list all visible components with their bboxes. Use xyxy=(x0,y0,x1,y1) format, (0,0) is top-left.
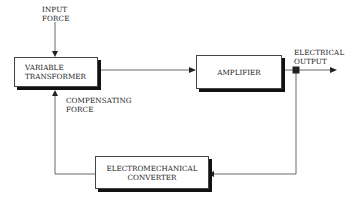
compensating-force-label: COMPENSATING FORCE xyxy=(66,97,132,114)
block-variable-transformer: VARIABLE TRANSFORMER xyxy=(14,57,98,87)
block-label: AMPLIFIER xyxy=(217,68,260,77)
block-electromechanical-converter: ELECTROMECHANICAL CONVERTER xyxy=(95,156,209,189)
block-amplifier: AMPLIFIER xyxy=(196,55,282,89)
arrow-up-icon xyxy=(52,90,58,96)
block-label: VARIABLE TRANSFORMER xyxy=(25,63,86,81)
junction-node-icon xyxy=(293,67,300,74)
input-force-label: INPUT FORCE xyxy=(42,6,70,23)
arrow-right-icon xyxy=(189,67,196,73)
arrow-right-icon xyxy=(330,67,337,73)
block-label: ELECTROMECHANICAL CONVERTER xyxy=(106,164,197,182)
electrical-output-label: ELECTRICAL OUTPUT xyxy=(294,49,344,66)
